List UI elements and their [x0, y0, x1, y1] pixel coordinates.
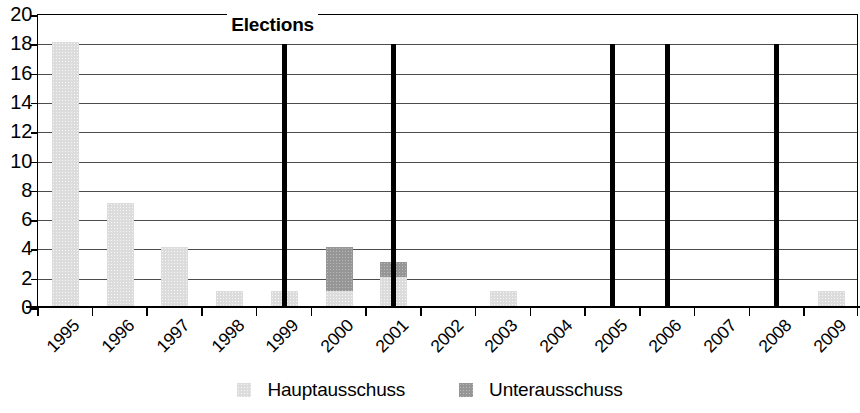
y-axis-tick-label: 20 — [0, 4, 32, 24]
legend-swatch-icon — [459, 383, 473, 397]
y-axis-tick-label: 6 — [0, 209, 32, 229]
elections-annotation-label: Elections — [227, 14, 318, 36]
x-axis-tick-label: 2006 — [636, 316, 685, 365]
x-axis-tick — [256, 307, 258, 316]
y-axis-tick — [31, 132, 38, 134]
y-axis-tick-label: 14 — [0, 92, 32, 112]
x-axis-tick-label: 1995 — [34, 316, 83, 365]
y-axis-tick — [31, 15, 38, 17]
legend-item[interactable]: Unterausschuss — [459, 380, 622, 400]
x-axis-tick — [420, 307, 422, 316]
plot-area — [37, 14, 858, 307]
x-axis-tick — [365, 307, 367, 316]
x-axis-tick-label: 1998 — [198, 316, 247, 365]
y-axis-tick — [31, 220, 38, 222]
x-axis-ticks — [37, 307, 858, 316]
x-axis-tick — [639, 307, 641, 316]
y-axis-tick — [31, 44, 38, 46]
x-axis-tick-label: 2000 — [307, 316, 356, 365]
x-axis-tick-label: 1999 — [253, 316, 302, 365]
x-axis-tick-label: 1996 — [88, 316, 137, 365]
legend-item[interactable]: Hauptausschuss — [237, 380, 405, 400]
x-axis-tick-label: 2003 — [471, 316, 520, 365]
x-axis-tick — [201, 307, 203, 316]
legend: HauptausschussUnterausschuss — [0, 380, 860, 400]
y-axis-tick — [31, 74, 38, 76]
x-axis-tick — [475, 307, 477, 316]
y-axis: 20181614121086420 — [0, 0, 32, 313]
x-axis-tick — [749, 307, 751, 316]
x-axis-tick — [694, 307, 696, 316]
legend-label: Unterausschuss — [489, 380, 622, 400]
y-axis-tick — [31, 279, 38, 281]
y-axis-tick — [31, 162, 38, 164]
x-axis-tick-label: 2009 — [800, 316, 849, 365]
x-axis-tick-label: 2008 — [745, 316, 794, 365]
election-lines-layer — [38, 15, 857, 306]
legend-swatch-icon — [237, 383, 251, 397]
x-axis-tick-label: 2004 — [526, 316, 575, 365]
y-axis-tick-label: 12 — [0, 121, 32, 141]
x-axis-tick — [803, 307, 805, 316]
y-axis-tick — [31, 191, 38, 193]
x-axis-tick-label: 2001 — [362, 316, 411, 365]
election-marker-line — [774, 44, 779, 308]
x-axis-tick — [311, 307, 313, 316]
y-axis-tick-label: 2 — [0, 268, 32, 288]
election-marker-line — [391, 44, 396, 308]
y-axis-tick-label: 8 — [0, 180, 32, 200]
x-axis-tick — [530, 307, 532, 316]
x-axis-tick-label: 2005 — [581, 316, 630, 365]
x-axis-tick — [857, 307, 859, 316]
y-axis-tick-label: 4 — [0, 238, 32, 258]
y-axis-tick-label: 18 — [0, 33, 32, 53]
x-axis-tick — [146, 307, 148, 316]
x-axis-tick-label: 2002 — [417, 316, 466, 365]
election-marker-line — [282, 44, 287, 308]
y-axis-tick — [31, 249, 38, 251]
election-marker-line — [665, 44, 670, 308]
x-axis-tick-label: 1997 — [143, 316, 192, 365]
x-axis-tick — [584, 307, 586, 316]
y-axis-tick — [31, 103, 38, 105]
bar-chart: 20181614121086420 Elections 199519961997… — [0, 0, 860, 413]
y-axis-tick-label: 10 — [0, 151, 32, 171]
legend-label: Hauptausschuss — [267, 380, 405, 400]
y-axis-tick-label: 16 — [0, 63, 32, 83]
election-marker-line — [610, 44, 615, 308]
x-axis-labels: 1995199619971998199920002001200220032004… — [37, 316, 858, 372]
x-axis-tick-label: 2007 — [690, 316, 739, 365]
x-axis-tick — [92, 307, 94, 316]
x-axis-tick — [37, 307, 39, 316]
